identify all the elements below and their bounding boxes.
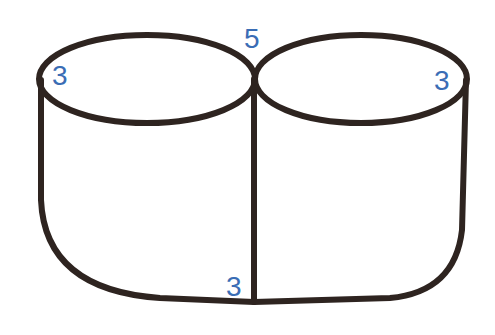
label-middle-top: 5: [244, 23, 260, 54]
graph-diagram: 3 5 3 3: [0, 0, 495, 335]
label-left-top: 3: [52, 60, 68, 91]
left-ellipse-edge: [39, 35, 255, 123]
label-right-top: 3: [434, 65, 450, 96]
label-bottom-middle: 3: [226, 271, 242, 302]
